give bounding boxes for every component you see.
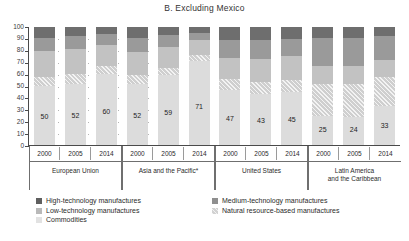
bar-segment-high [34,27,55,38]
bar-segment-low [65,49,86,74]
bar-segment-medium [250,40,271,59]
bar-value-label: 47 [219,115,240,122]
x-axis-group: 200020052014United States [215,146,308,190]
bar-segment-natural [281,80,302,92]
stacked-bar[interactable]: 59 [158,27,179,145]
bar-value-label: 50 [34,113,55,120]
bar-slot: 45 [276,27,307,145]
x-axis-year-cell: 2005 [339,146,370,161]
legend-item-label: Medium-technology manufactures [222,197,327,205]
bar-segment-high [281,27,302,39]
y-tick-label: 10 [4,131,24,138]
bar-group: 252433 [307,27,400,145]
bar-segment-high [219,27,240,40]
bar-segment-high [127,27,148,38]
y-tick-label: 30 [4,107,24,114]
bar-segment-low [34,51,55,77]
legend-swatch-medium-icon [212,198,218,204]
bar-slot: 43 [245,27,276,145]
legend-item-label: Commodities [46,216,87,224]
bar-value-label: 60 [96,108,117,115]
bar-segment-low [96,45,117,66]
stacked-bar[interactable]: 45 [281,27,302,145]
bar-segment-natural [34,77,55,86]
y-tick-label: 0 [4,143,24,150]
legend-swatch-low-icon [36,208,42,214]
legend-swatch-commodities-icon [36,217,42,223]
x-axis-year-cell: 2014 [91,146,122,161]
stacked-bar[interactable]: 43 [250,27,271,145]
x-axis-year-cell: 2014 [184,146,215,161]
bar-segment-high [374,27,395,36]
stacked-bar[interactable]: 25 [312,27,333,145]
bar-segment-low [250,59,271,83]
bar-segment-natural [219,79,240,90]
bar-segment-low [312,66,333,84]
bar-slot: 24 [338,27,369,145]
legend-item[interactable]: Natural resource-based manufactures [212,207,398,215]
y-tick-label: 50 [4,83,24,90]
bar-segment-low [374,60,395,77]
x-axis-year-cell: 2000 [308,146,339,161]
chart-root: B. Excluding Mexico 10090807060504030201… [0,0,409,241]
bar-segment-natural [374,77,395,107]
bar-slot: 50 [29,27,60,145]
plot-area: 1009080706050403020100 50526052597147434… [28,27,400,146]
bar-segment-medium [34,38,55,51]
bar-value-label: 59 [158,109,179,116]
x-axis-group: 200020052014Asia and the Pacific* [122,146,215,190]
bar-segment-low [343,66,364,84]
bar-segment-medium [127,38,148,52]
y-tick-label: 40 [4,95,24,102]
bar-segment-medium [374,36,395,60]
bar-segment-low [158,47,179,68]
bar-value-label: 24 [343,126,364,133]
bar-group: 525971 [122,27,215,145]
chart-legend: High-technology manufacturesLow-technolo… [36,197,398,237]
bar-segment-low [281,56,302,80]
legend-item[interactable]: High-technology manufactures [36,197,212,205]
stacked-bar[interactable]: 52 [127,27,148,145]
bar-segment-high [158,27,179,35]
bar-segment-natural [158,68,179,75]
x-axis-region-label: United States [215,162,308,190]
legend-item[interactable]: Medium-technology manufactures [212,197,398,205]
bar-segment-natural [65,74,86,83]
x-axis-year-cell: 2000 [122,146,153,161]
bar-group: 474345 [215,27,308,145]
x-axis-year-cell: 2000 [29,146,60,161]
bar-segment-low [189,40,210,55]
bar-slot: 59 [153,27,184,145]
bar-segment-medium [189,33,210,40]
bar-segment-low [127,52,148,76]
x-axis-year-cell: 2005 [60,146,91,161]
stacked-bar[interactable]: 47 [219,27,240,145]
legend-item[interactable]: Commodities [36,216,212,224]
legend-item-label: Natural resource-based manufactures [222,207,340,215]
stacked-bar[interactable]: 50 [34,27,55,145]
bar-segment-medium [312,38,333,66]
stacked-bar[interactable]: 33 [374,27,395,145]
y-tick-label: 20 [4,119,24,126]
chart-title: B. Excluding Mexico [0,3,409,13]
bar-segment-natural [343,84,364,117]
bar-slot: 52 [60,27,91,145]
x-axis-year-row: 200020052014 [308,146,401,161]
bar-value-label: 52 [65,112,86,119]
x-axis-year-cell: 2014 [370,146,401,161]
x-axis-region-label: Asia and the Pacific* [122,162,215,190]
legend-item[interactable]: Low-technology manufactures [36,207,212,215]
x-axis-year-row: 200020052014 [29,146,122,161]
bar-slot: 33 [369,27,400,145]
bar-segment-medium [219,40,240,58]
legend-swatch-natural-icon [212,208,218,214]
legend-swatch-high-icon [36,198,42,204]
y-tick-label: 70 [4,59,24,66]
stacked-bar[interactable]: 52 [65,27,86,145]
stacked-bar[interactable]: 71 [189,27,210,145]
y-tick-label: 80 [4,47,24,54]
stacked-bar[interactable]: 24 [343,27,364,145]
bar-value-label: 45 [281,116,302,123]
stacked-bar[interactable]: 60 [96,27,117,145]
legend-item-label: Low-technology manufactures [46,207,139,215]
